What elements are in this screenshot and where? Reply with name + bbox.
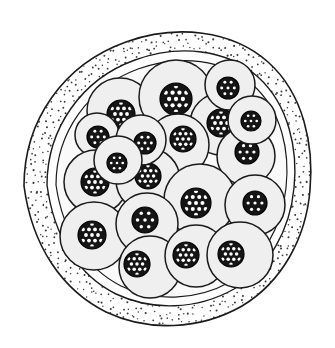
cell — [94, 136, 142, 184]
nucleus — [241, 111, 261, 131]
nucleus — [170, 126, 196, 152]
cell — [228, 96, 276, 144]
cell — [207, 222, 273, 288]
nucleus — [107, 153, 127, 173]
figure-root — [0, 0, 335, 348]
nucleus — [243, 191, 267, 215]
nucleus — [173, 242, 199, 268]
nucleus — [124, 251, 150, 277]
nucleus — [78, 221, 106, 249]
nucleus — [181, 188, 211, 218]
cell-mass — [60, 60, 285, 298]
nucleus — [160, 83, 192, 115]
nucleus — [218, 241, 244, 267]
nucleus — [132, 207, 158, 233]
nucleus — [217, 77, 239, 99]
cross-section-diagram — [0, 0, 335, 348]
